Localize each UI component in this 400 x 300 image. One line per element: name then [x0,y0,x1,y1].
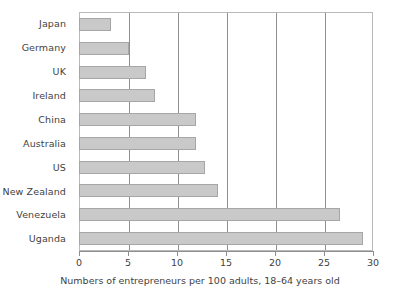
bar-slot [80,226,372,250]
bar-slot [80,13,372,37]
bar-new-zealand [79,184,218,197]
category-label-australia: Australia [0,132,73,156]
x-tick-5 [128,251,129,256]
x-tick-20 [275,251,276,256]
x-tick-label-25: 25 [318,258,330,268]
bar-australia [79,137,196,150]
bar-venezuela [79,208,340,221]
x-tick-10 [177,251,178,256]
category-label-venezuela: Venezuela [0,203,73,227]
bar-germany [79,42,129,55]
bar-ireland [79,89,155,102]
bar-japan [79,18,111,31]
bar-chart: Japan Germany UK Ireland China Australia… [0,0,400,300]
x-tick-label-30: 30 [367,258,379,268]
bar-slot [80,179,372,203]
category-label-uganda: Uganda [0,227,73,251]
x-tick-label-20: 20 [269,258,281,268]
x-tick-30 [373,251,374,256]
category-label-china: China [0,108,73,132]
category-label-new-zealand: New Zealand [0,179,73,203]
category-label-ireland: Ireland [0,84,73,108]
x-tick-label-5: 5 [125,258,131,268]
bar-slot [80,155,372,179]
bar-slot [80,60,372,84]
bar-slot [80,108,372,132]
category-label-us: US [0,155,73,179]
bar-slot [80,37,372,61]
bar-slot [80,203,372,227]
bar-uganda [79,232,363,245]
bar-series [80,13,372,250]
x-tick-25 [324,251,325,256]
bar-uk [79,66,146,79]
x-tick-label-0: 0 [76,258,82,268]
x-tick-0 [79,251,80,256]
plot-area [79,12,373,251]
x-tick-15 [226,251,227,256]
category-label-japan: Japan [0,12,73,36]
x-tick-label-15: 15 [220,258,232,268]
bar-us [79,161,205,174]
category-axis-labels: Japan Germany UK Ireland China Australia… [0,12,73,251]
category-label-germany: Germany [0,36,73,60]
x-tick-label-10: 10 [171,258,183,268]
bar-china [79,113,196,126]
bar-slot [80,84,372,108]
category-label-uk: UK [0,60,73,84]
x-axis-tick-labels: 051015202530 [79,258,373,272]
bar-slot [80,132,372,156]
x-axis-title: Numbers of entrepreneurs per 100 adults,… [0,276,400,286]
